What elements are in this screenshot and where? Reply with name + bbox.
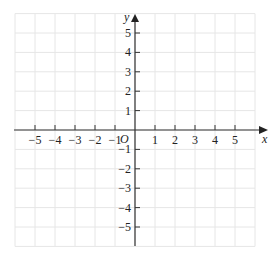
origin-label: O <box>120 132 129 146</box>
y-axis-label: y <box>123 10 130 24</box>
y-tick-label: 2 <box>125 84 131 98</box>
x-tick-label: 5 <box>232 133 238 147</box>
x-tick-label: −3 <box>69 133 82 147</box>
axes <box>14 14 268 246</box>
y-tick-label: −2 <box>118 162 131 176</box>
x-tick-label: −5 <box>29 133 42 147</box>
y-tick-label: 4 <box>125 45 131 59</box>
x-tick-label: −4 <box>49 133 62 147</box>
x-tick-label: 3 <box>192 133 198 147</box>
y-axis-arrow-icon <box>131 14 139 22</box>
y-tick-label: 5 <box>125 26 131 40</box>
x-tick-label: 2 <box>172 133 178 147</box>
coordinate-grid: −5−4−3−2−11234554321−1−2−3−4−5 x y O <box>0 0 270 267</box>
y-tick-label: −5 <box>118 220 131 234</box>
y-tick-label: 3 <box>125 65 131 79</box>
y-tick-label: 1 <box>125 104 131 118</box>
y-tick-label: −4 <box>118 201 131 215</box>
x-tick-label: −2 <box>89 133 102 147</box>
labels: x y O <box>120 10 268 146</box>
y-tick-label: −3 <box>118 181 131 195</box>
x-axis-label: x <box>261 132 268 146</box>
x-tick-label: 4 <box>212 133 218 147</box>
x-tick-label: 1 <box>152 133 158 147</box>
